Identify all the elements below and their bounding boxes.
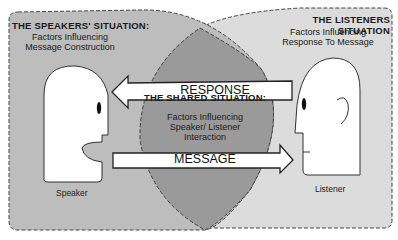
listener-situation-line1: Factors Influencing <box>268 27 388 37</box>
speaker-situation-line1: Factors Influencing <box>20 32 120 42</box>
response-label: RESPONSE <box>150 83 280 97</box>
communication-diagram: THE SPEAKERS' SITUATION: Factors Influen… <box>0 0 398 240</box>
listener-label: Listener <box>315 184 345 194</box>
speaker-label: Speaker <box>56 188 88 198</box>
speaker-eye <box>97 102 101 114</box>
shared-situation-line1: Factors Influencing <box>150 112 260 122</box>
listener-situation-line2: Response To Message <box>268 37 388 47</box>
message-label: MESSAGE <box>150 152 260 166</box>
listener-eye <box>302 98 306 110</box>
shared-situation-line2: Speaker/ Listener <box>150 122 260 132</box>
speaker-situation-line2: Message Construction <box>20 42 120 52</box>
speaker-situation-title: THE SPEAKERS' SITUATION: <box>12 21 152 32</box>
shared-situation-line3: Interaction <box>150 132 260 142</box>
speaker-head <box>44 66 108 182</box>
